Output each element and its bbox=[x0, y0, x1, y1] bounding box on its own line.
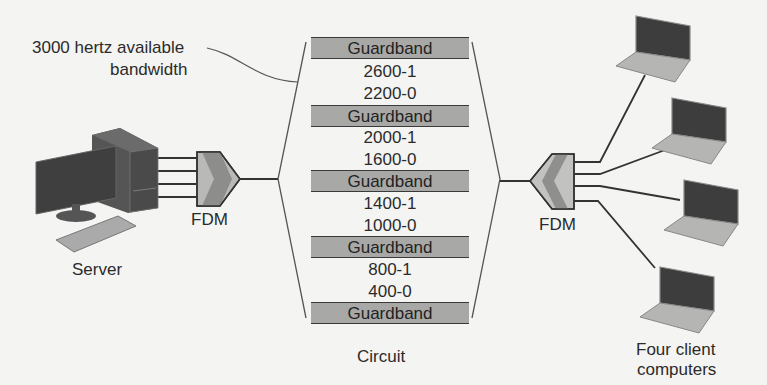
guardband-5: Guardband bbox=[311, 302, 469, 324]
client-channel-lines bbox=[574, 75, 680, 268]
circuit-right-bracket bbox=[472, 42, 500, 318]
freq-2600-1: 2600-1 bbox=[311, 62, 469, 82]
server-label: Server bbox=[72, 260, 122, 280]
fdm-right-label: FDM bbox=[539, 215, 576, 235]
guardband-1: Guardband bbox=[311, 37, 469, 59]
fdm-left-icon bbox=[197, 152, 240, 206]
freq-2000-1: 2000-1 bbox=[311, 128, 469, 148]
clients-label-line2: computers bbox=[637, 360, 716, 380]
freq-2200-0: 2200-0 bbox=[311, 84, 469, 104]
annotation-line1: 3000 hertz available bbox=[32, 38, 184, 58]
freq-1600-0: 1600-0 bbox=[311, 150, 469, 170]
fdm-right-icon bbox=[530, 154, 574, 209]
circuit-label: Circuit bbox=[357, 347, 405, 367]
circuit-left-bracket bbox=[278, 42, 306, 318]
freq-1400-1: 1400-1 bbox=[311, 194, 469, 214]
laptop-icon-1 bbox=[616, 16, 690, 82]
clients-label-line1: Four client bbox=[636, 340, 715, 360]
server-monitor-icon bbox=[36, 146, 116, 222]
guardband-2: Guardband bbox=[311, 105, 469, 127]
laptop-icon-4 bbox=[640, 267, 714, 333]
server-channel-lines bbox=[158, 158, 198, 197]
fdm-left-label: FDM bbox=[191, 210, 228, 230]
laptop-icon-3 bbox=[664, 180, 738, 246]
freq-1000-0: 1000-0 bbox=[311, 216, 469, 236]
guardband-4: Guardband bbox=[311, 236, 469, 258]
annotation-line2: bandwidth bbox=[110, 60, 188, 80]
freq-800-1: 800-1 bbox=[311, 260, 469, 280]
annotation-leader-line bbox=[207, 48, 298, 82]
fdm-diagram: 3000 hertz available bandwidth Server FD… bbox=[0, 0, 767, 385]
guardband-3: Guardband bbox=[311, 170, 469, 192]
freq-400-0: 400-0 bbox=[311, 282, 469, 302]
laptop-icon-2 bbox=[652, 98, 726, 164]
